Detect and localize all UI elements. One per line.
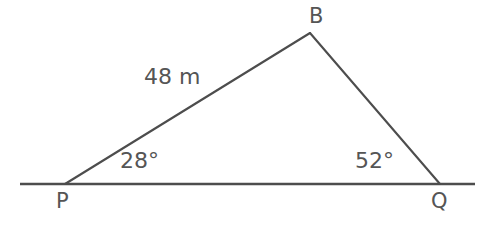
triangle-figure-svg bbox=[0, 0, 480, 232]
vertex-label-q: Q bbox=[431, 191, 448, 212]
geometry-diagram: P Q B 48 m 28° 52° bbox=[0, 0, 480, 232]
side-length-label-pb: 48 m bbox=[144, 66, 200, 88]
angle-label-q: 52° bbox=[355, 150, 394, 172]
angle-label-p: 28° bbox=[120, 150, 159, 172]
vertex-label-p: P bbox=[56, 191, 69, 212]
side-pb-segment bbox=[65, 33, 310, 184]
vertex-label-b: B bbox=[309, 6, 323, 27]
